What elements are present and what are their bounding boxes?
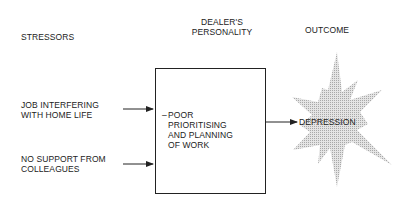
header-stressors: STRESSORS <box>21 32 74 42</box>
outcome-depression: DEPRESSION <box>299 117 356 127</box>
stressor-line: COLLEAGUES <box>21 164 106 174</box>
stressor-line: WITH HOME LIFE <box>21 110 99 120</box>
stressor-job-interfering: JOB INTERFERING WITH HOME LIFE <box>21 100 99 120</box>
trait-line: POOR <box>168 110 233 120</box>
header-personality-line1: DEALER'S <box>172 17 272 27</box>
header-outcome: OUTCOME <box>305 25 349 35</box>
personality-trait: POOR PRIORITISING AND PLANNING OF WORK <box>168 110 233 150</box>
header-personality: DEALER'S PERSONALITY <box>172 17 272 37</box>
trait-line: OF WORK <box>168 140 233 150</box>
stressor-line: NO SUPPORT FROM <box>21 154 106 164</box>
header-personality-line2: PERSONALITY <box>172 27 272 37</box>
trait-line: PRIORITISING <box>168 120 233 130</box>
trait-line: AND PLANNING <box>168 130 233 140</box>
stressor-line: JOB INTERFERING <box>21 100 99 110</box>
personality-bullet: – <box>162 110 167 120</box>
stressor-no-support: NO SUPPORT FROM COLLEAGUES <box>21 154 106 174</box>
